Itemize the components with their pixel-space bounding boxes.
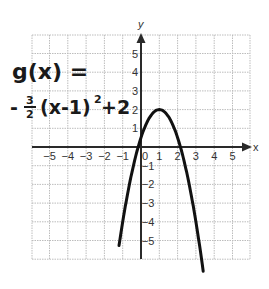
y-tick-label: −3 <box>142 197 155 209</box>
minus-sign: - <box>10 96 18 118</box>
handwritten-function-label: g(x) = - 3 2 (x-1) 2 +2 <box>10 59 130 121</box>
svg-text:2: 2 <box>26 108 34 121</box>
y-tick-label: −1 <box>142 160 155 172</box>
x-tick-label: −4 <box>62 150 75 162</box>
x-tick-label: 2 <box>175 150 181 162</box>
x-axis-label: x <box>253 141 259 153</box>
function-label-tail: +2 <box>101 96 130 118</box>
y-axis-label: y <box>137 18 145 30</box>
y-tick-label: −2 <box>142 178 155 190</box>
function-label-line2: - <box>10 96 18 118</box>
y-tick-label: 5 <box>132 48 138 60</box>
x-tick-label: −1 <box>116 150 129 162</box>
function-label-line1: g(x) = <box>12 59 88 84</box>
y-tick-label: 1 <box>132 122 138 134</box>
function-label-body: (x-1) <box>40 96 91 118</box>
y-tick-label: −5 <box>142 235 155 247</box>
x-tick-label: −2 <box>98 150 111 162</box>
coordinate-plane: x y −5−4−3−2−101234554321−1−2−3−4−5 g(x)… <box>0 0 269 289</box>
fraction-three-halves: 3 2 <box>24 94 36 121</box>
graph-figure: x y −5−4−3−2−101234554321−1−2−3−4−5 g(x)… <box>0 0 269 289</box>
x-tick-label: 1 <box>156 150 162 162</box>
x-tick-label: 3 <box>193 150 199 162</box>
x-tick-label: −3 <box>80 150 93 162</box>
x-tick-label: 5 <box>229 150 235 162</box>
y-tick-label: 2 <box>132 104 138 116</box>
y-tick-label: 4 <box>132 66 138 78</box>
x-tick-label: 4 <box>211 150 217 162</box>
y-tick-label: −4 <box>142 216 155 228</box>
y-tick-label: 3 <box>132 85 138 97</box>
x-tick-label: −5 <box>43 150 56 162</box>
svg-text:3: 3 <box>26 94 34 107</box>
